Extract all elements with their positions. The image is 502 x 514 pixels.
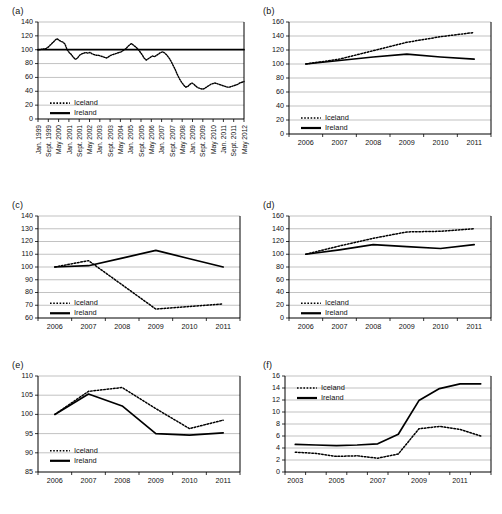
xtick-label-4: 2010 — [433, 322, 449, 331]
chart-svg-d: 0204060801001201401602006200720082009201… — [259, 200, 502, 358]
xtick-label-4: Sept. 2001 — [76, 125, 84, 157]
ytick-label-120: 120 — [272, 236, 284, 245]
legend-label-iceland-e: Iceland — [74, 446, 98, 455]
ytick-label-100: 100 — [21, 262, 33, 271]
ytick-label-60: 60 — [25, 72, 33, 81]
legend-label-iceland-c: Iceland — [74, 298, 98, 307]
xtick-label-2: 2008 — [114, 322, 130, 331]
legend-label-ireland-c: Ireland — [74, 308, 97, 317]
chart-panel-d: (d)0204060801001201401602006200720082009… — [259, 200, 502, 358]
ytick-label-105: 105 — [21, 390, 33, 399]
ytick-label-80: 80 — [25, 58, 33, 67]
ytick-label-85: 85 — [25, 467, 33, 476]
xtick-label-3: 2009 — [399, 322, 415, 331]
legend-label-ireland-f: Ireland — [321, 393, 344, 402]
xtick-label-2: 2005 — [329, 476, 345, 485]
ytick-label-0: 0 — [276, 467, 280, 476]
chart-panel-c: (c)6070809010011012013014020062007200820… — [8, 200, 251, 358]
xtick-label-8: 2011 — [452, 476, 467, 485]
xtick-label-19: Sept. 2011 — [230, 125, 238, 157]
ytick-label-95: 95 — [25, 429, 33, 438]
ytick-label-0: 0 — [280, 313, 284, 322]
series-ireland-c — [55, 250, 223, 267]
ytick-label-120: 120 — [272, 45, 284, 54]
legend-label-iceland-a: Iceland — [74, 98, 98, 107]
ytick-label-14: 14 — [272, 383, 280, 392]
xtick-label-6: 2009 — [411, 476, 427, 485]
xtick-label-16: Sept. 2009 — [199, 125, 207, 157]
ytick-label-4: 4 — [276, 443, 280, 452]
ytick-label-8: 8 — [276, 419, 280, 428]
ytick-label-40: 40 — [25, 86, 33, 95]
chart-svg-b: 0204060801001201401602006200720082009201… — [259, 6, 502, 166]
ytick-label-140: 140 — [21, 17, 33, 26]
panel-label-c: (c) — [12, 200, 23, 210]
ytick-label-100: 100 — [21, 409, 33, 418]
chart-svg-e: 859095100105110200620072008200920102011I… — [8, 360, 251, 510]
xtick-label-0: Jan. 1999 — [35, 125, 42, 154]
xtick-label-5: 2011 — [215, 476, 230, 485]
ytick-label-100: 100 — [21, 45, 33, 54]
legend-label-ireland-d: Ireland — [325, 308, 348, 317]
ytick-label-80: 80 — [25, 287, 33, 296]
xtick-label-13: Sept. 2007 — [169, 125, 177, 157]
xtick-label-5: 2011 — [215, 322, 230, 331]
ytick-label-10: 10 — [272, 407, 280, 416]
ytick-label-130: 130 — [21, 224, 33, 233]
series-iceland-b — [306, 33, 474, 65]
ytick-label-80: 80 — [276, 262, 284, 271]
ytick-label-60: 60 — [276, 275, 284, 284]
ytick-label-90: 90 — [25, 448, 33, 457]
ytick-label-140: 140 — [21, 211, 33, 220]
xtick-label-3: Jan. 2001 — [66, 125, 73, 154]
xtick-label-8: May 2004 — [117, 125, 125, 154]
ytick-label-16: 16 — [272, 371, 280, 380]
ytick-label-160: 160 — [272, 17, 284, 26]
legend-label-iceland-b: Iceland — [325, 113, 349, 122]
panel-label-f: (f) — [263, 360, 272, 370]
xtick-label-2: 2008 — [365, 322, 381, 331]
xtick-label-3: 2009 — [399, 138, 415, 147]
ytick-label-120: 120 — [21, 236, 33, 245]
chart-svg-c: 6070809010011012013014020062007200820092… — [8, 200, 251, 358]
xtick-label-2: May 2000 — [55, 125, 63, 154]
chart-svg-f: 024681012141620032005200720092011Iceland… — [259, 360, 502, 510]
xtick-label-4: 2010 — [182, 476, 198, 485]
legend-label-iceland-d: Iceland — [325, 298, 349, 307]
ytick-label-100: 100 — [272, 249, 284, 258]
xtick-label-17: May 2010 — [210, 125, 218, 154]
ytick-label-80: 80 — [276, 73, 284, 82]
ytick-label-120: 120 — [21, 31, 33, 40]
xtick-label-2: 2008 — [114, 476, 130, 485]
chart-panel-f: (f)024681012141620032005200720092011Icel… — [259, 360, 502, 510]
xtick-label-4: 2010 — [433, 138, 449, 147]
xtick-label-15: Jan. 2009 — [189, 125, 196, 154]
xtick-label-12: Jan. 2007 — [158, 125, 165, 154]
ytick-label-160: 160 — [272, 211, 284, 220]
ytick-label-90: 90 — [25, 275, 33, 284]
xtick-label-20: May 2012 — [241, 125, 249, 154]
ytick-label-110: 110 — [22, 371, 33, 380]
xtick-label-3: 2009 — [148, 322, 164, 331]
ytick-label-6: 6 — [276, 431, 280, 440]
xtick-label-0: 2006 — [298, 138, 314, 147]
ytick-label-140: 140 — [272, 31, 284, 40]
figure-panel-grid: (a)020406080100120140Jan. 1999Sept. 1999… — [0, 0, 502, 514]
xtick-label-18: Jan. 2011 — [220, 125, 227, 154]
ytick-label-40: 40 — [276, 287, 284, 296]
panel-label-a: (a) — [12, 6, 24, 16]
ytick-label-12: 12 — [272, 395, 280, 404]
series-iceland-e — [55, 388, 223, 429]
ytick-label-2: 2 — [276, 455, 280, 464]
ytick-label-140: 140 — [272, 224, 284, 233]
ytick-label-0: 0 — [29, 114, 33, 123]
ytick-label-20: 20 — [25, 100, 33, 109]
series-ireland-b — [306, 54, 474, 64]
xtick-label-0: 2006 — [47, 476, 63, 485]
xtick-label-1: Sept. 1999 — [45, 125, 53, 157]
series-iceland-f — [295, 426, 480, 458]
xtick-label-11: May 2006 — [148, 125, 156, 154]
chart-panel-b: (b)0204060801001201401602006200720082009… — [259, 6, 502, 166]
panel-label-d: (d) — [263, 200, 275, 210]
xtick-label-5: May 2002 — [86, 125, 94, 154]
